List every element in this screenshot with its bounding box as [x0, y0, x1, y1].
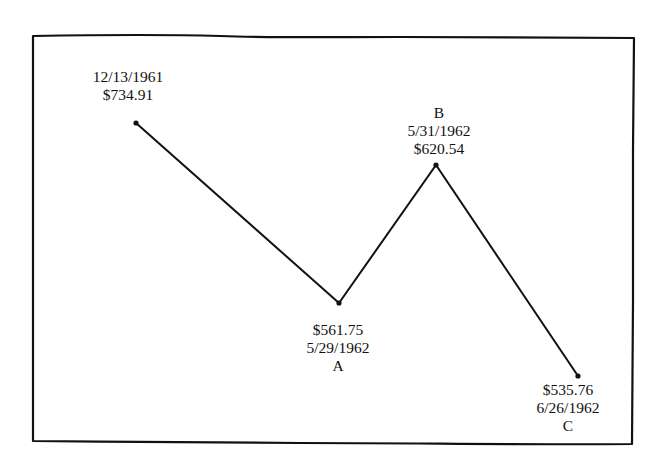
label-a-tag: A — [307, 357, 370, 375]
label-a-date: 5/29/1962 — [307, 339, 370, 357]
label-b-date: 5/31/1962 — [408, 122, 471, 140]
label-c-tag: C — [537, 417, 600, 435]
label-c-price: $535.76 — [537, 381, 600, 399]
data-point-b — [433, 162, 438, 167]
label-a-price: $561.75 — [307, 321, 370, 339]
label-b: B 5/31/1962 $620.54 — [408, 104, 471, 158]
label-c: $535.76 6/26/1962 C — [537, 381, 600, 435]
label-b-tag: B — [408, 104, 471, 122]
data-point-c — [575, 373, 580, 378]
data-point-start — [133, 120, 138, 125]
data-point-a — [336, 300, 341, 305]
label-a: $561.75 5/29/1962 A — [307, 321, 370, 375]
label-c-date: 6/26/1962 — [537, 399, 600, 417]
label-start-date: 12/13/1961 — [93, 68, 164, 86]
label-start-price: $734.91 — [93, 86, 164, 104]
label-b-price: $620.54 — [408, 140, 471, 158]
label-start: 12/13/1961 $734.91 — [93, 68, 164, 104]
